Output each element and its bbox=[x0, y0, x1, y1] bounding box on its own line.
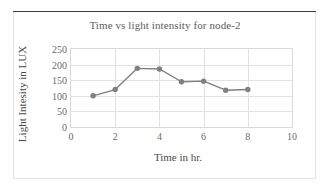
figure-container: Time vs light intensity for node-2 Light… bbox=[0, 0, 330, 187]
y-tick-label: 100 bbox=[52, 90, 67, 101]
y-tick-label: 150 bbox=[52, 75, 67, 86]
data-point-marker: 3, 188 bbox=[135, 66, 140, 71]
plot-area: 050100150200250 0246810 1, 1002, 1203, 1… bbox=[70, 48, 293, 128]
x-tick-label: 0 bbox=[69, 131, 74, 142]
data-point-marker: 6, 147 bbox=[201, 78, 206, 83]
x-tick-label: 4 bbox=[157, 131, 162, 142]
x-tick-label: 10 bbox=[287, 131, 297, 142]
y-tick-label: 250 bbox=[52, 44, 67, 55]
y-tick-label: 0 bbox=[62, 122, 67, 133]
data-point-marker: 4, 186 bbox=[157, 66, 162, 71]
data-point-marker: 5, 145 bbox=[179, 79, 184, 84]
y-tick-label: 200 bbox=[52, 59, 67, 70]
data-point-marker: 8, 120 bbox=[245, 87, 250, 92]
data-point-marker: 1, 100 bbox=[90, 93, 95, 98]
y-tick-label: 50 bbox=[57, 106, 67, 117]
chart-title: Time vs light intensity for node-2 bbox=[40, 19, 290, 31]
data-point-marker: 2, 120 bbox=[113, 87, 118, 92]
x-axis-title: Time in hr. bbox=[63, 151, 293, 163]
data-series-line: 1, 1002, 1203, 1884, 1865, 1456, 1477, 1… bbox=[71, 49, 292, 127]
x-tick-label: 8 bbox=[245, 131, 250, 142]
data-point-marker: 7, 118 bbox=[223, 87, 228, 92]
x-tick-label: 2 bbox=[113, 131, 118, 142]
y-axis-title: Light Intesity in LUX bbox=[16, 39, 28, 149]
x-tick-label: 6 bbox=[201, 131, 206, 142]
